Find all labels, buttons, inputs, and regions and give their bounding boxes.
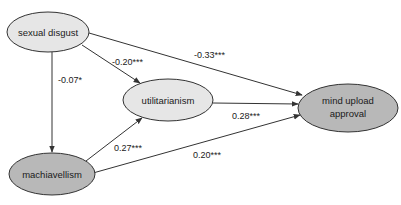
node-label-machiavellism: machiavellism	[22, 169, 82, 180]
edge-label-sd-mach: -0.07*	[58, 75, 83, 85]
node-label-utilitarianism: utilitarianism	[142, 95, 195, 106]
edge-label-sd-util: -0.20***	[112, 57, 144, 67]
node-utilitarianism: utilitarianism	[123, 79, 213, 121]
node-sexual-disgust: sexual disgust	[7, 12, 89, 52]
node-machiavellism: machiavellism	[9, 153, 95, 195]
path-diagram: sexual disgust utilitarianism machiavell…	[0, 0, 401, 205]
edge-label-util-mua: 0.28***	[232, 111, 261, 121]
node-label-mind-upload-line2: approval	[330, 108, 366, 119]
edge-label-mach-util: 0.27***	[114, 143, 143, 153]
node-label-mind-upload-line1: mind upload	[322, 95, 374, 106]
edge-machiavellism-to-utilitarianism	[86, 118, 142, 161]
node-label-sexual-disgust: sexual disgust	[18, 27, 79, 38]
edge-label-mach-mua: 0.20***	[193, 150, 222, 160]
edge-label-sd-mua: -0.33***	[194, 50, 226, 60]
node-mind-upload-approval: mind upload approval	[298, 84, 398, 132]
edge-utilitarianism-to-mind-upload	[213, 103, 298, 104]
